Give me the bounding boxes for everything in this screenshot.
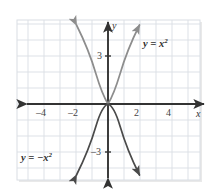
graph-canvas xyxy=(0,0,215,193)
x-tick-label-pos2: 2 xyxy=(134,108,139,118)
y-tick-label-neg3: –3 xyxy=(91,147,101,157)
annotation-upper-exponent: 2 xyxy=(164,37,168,45)
annotation-y-equals-x-squared: y = x2 xyxy=(143,39,168,50)
x-axis-label: x xyxy=(196,109,200,119)
y-tick-label-pos3: 3 xyxy=(97,51,102,61)
y-axis-label: y xyxy=(112,21,116,31)
annotation-upper-base: y = x xyxy=(143,38,164,49)
x-tick-label-neg2: –2 xyxy=(68,108,78,118)
annotation-lower-base: y = −x xyxy=(21,152,49,163)
x-tick-label-pos4: 4 xyxy=(166,108,171,118)
annotation-y-equals-negative-x-squared: y = −x2 xyxy=(21,153,52,164)
annotation-lower-exponent: 2 xyxy=(49,151,53,159)
x-tick-label-neg4: –4 xyxy=(36,108,46,118)
figure-container: –4 –2 2 4 3 –3 x y y = x2 y = −x2 xyxy=(0,0,215,193)
